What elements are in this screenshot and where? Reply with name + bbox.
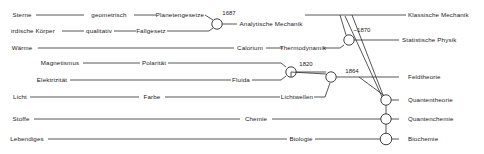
label-thermodynamik: Thermodynamik [280,45,326,51]
label-biochemie: Biochemie [408,136,438,142]
year-1864: 1864 [345,68,358,74]
node-quantentheorie [381,95,391,105]
label-irdische-koerper: irdische Körper [11,28,55,34]
line-lichtwellen-to-node1864 [314,83,330,97]
label-elektrizitaet: Elektrizität [37,77,67,83]
year-1870: ~1870 [354,27,371,33]
label-sterne: Sterne [12,12,31,18]
label-licht: Licht [13,94,27,100]
label-polaritaet: Polarität [142,60,166,66]
node-1687 [212,19,222,29]
label-quantenchemie: Quantenchemie [408,116,454,122]
line-klassischemechanik-down-to-1870 [340,15,346,35]
label-fallgesetz: Fallgesetz [136,28,166,34]
label-lichtwellen: Lichtwellen [281,94,313,100]
label-lebendiges: Lebendiges [10,136,44,142]
node-biochemie [380,133,392,145]
line-feldtheorie-down [359,77,386,97]
node-1864 [326,72,336,82]
label-geometrisch: geometrisch [91,12,126,18]
label-fluida: Fluida [232,77,250,83]
line-polaritaet-to-node1820 [168,63,286,67]
label-waerme: Wärme [12,45,33,51]
line-planetengesetze-to-node1687 [205,15,213,20]
label-planetengesetze: Planetengesetze [156,12,204,18]
label-analytische-mechanik: Analytische Mechanik [240,21,303,27]
label-biologie: Biologie [289,136,312,142]
label-feldtheorie: Feldtheorie [408,74,441,80]
label-farbe: Farbe [144,94,161,100]
label-magnetismus: Magnetismus [41,60,79,66]
line-fluida-to-node1820 [252,76,286,80]
label-calorium: Calorium [237,45,263,51]
label-qualitativ: qualitativ [86,28,112,34]
label-quantentheorie: Quantentheorie [408,97,453,103]
year-1687: 1687 [222,10,235,16]
label-stoffe: Stoffe [13,116,30,122]
label-chemie: Chemie [245,116,267,122]
node-1870 [344,35,354,45]
node-quantenchemie [381,114,391,124]
label-klassische-mechanik: Klassische Mechanik [408,12,469,18]
diagram-canvas: Sterne geometrisch Planetengesetze 1687 … [0,0,484,154]
year-1820: 1820 [299,61,312,67]
label-statistische-physik: Statistische Physik [402,37,456,43]
line-fallgesetz-to-node1687 [167,28,213,31]
